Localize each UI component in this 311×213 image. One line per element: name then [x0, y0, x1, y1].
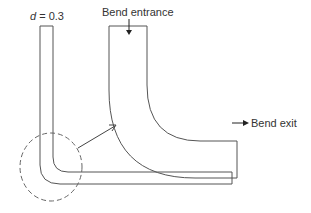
exit-arrow: [232, 120, 249, 126]
detail-circle: [20, 133, 82, 201]
zoom-arrow: [78, 125, 116, 148]
diameter-label: d = 0.3: [30, 11, 64, 22]
bend-exit-label: Bend exit: [251, 118, 297, 129]
thin-pipe: [40, 26, 232, 184]
enlarged-bend: [109, 26, 237, 178]
bend-diagram: [0, 0, 311, 213]
diameter-eq: = 0.3: [36, 10, 64, 22]
entrance-arrow: [126, 19, 132, 35]
bend-entrance-label: Bend entrance: [102, 7, 174, 18]
